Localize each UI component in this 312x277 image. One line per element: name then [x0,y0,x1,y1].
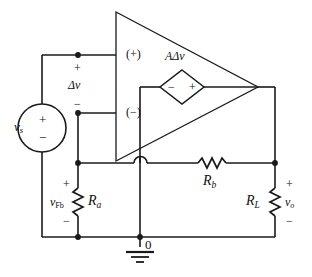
output-voltage-label: vo [285,196,294,210]
dependent-source-diamond [160,70,204,104]
source-label: vs [14,120,23,135]
delta-v-plus-sign: + [74,62,81,74]
resistor-a-branch [73,113,83,240]
resistor-load-label: RL [246,194,260,210]
opamp-inverting-terminal-label: (−) [126,106,141,118]
resistor-a-label: Ra [88,194,101,210]
ground-node-label: 0 [145,238,152,251]
source-label-subscript: s [20,125,23,135]
feedback-voltage-label: vFb [50,196,64,210]
resistor-load-zigzag [270,188,280,216]
resistor-b-label: Rb [203,174,216,190]
dependent-source-plus-sign: + [189,81,196,93]
output-voltage-plus-sign: + [286,178,293,190]
resistor-load-subscript: L [255,200,260,210]
resistor-a-zigzag [73,188,83,216]
circuit-schematic-canvas [0,0,312,277]
noninverting-input-lead [42,52,116,58]
delta-v-minus-sign: − [74,98,81,110]
source-plus-sign: + [39,113,46,126]
node-dot-plus-input [75,52,81,58]
dependent-source-branch [140,70,258,163]
opamp-noninverting-terminal-label: (+) [126,48,141,60]
source-minus-sign: − [39,131,46,144]
resistor-b-zigzag [198,158,226,168]
dependent-source-label: AΔv [165,50,185,62]
feedback-voltage-plus-sign: + [63,178,70,190]
circuit-diagram: vs + − + Δv − (+) (−) AΔv − + + vFb − Ra… [0,0,312,277]
feedback-rail [78,157,278,169]
feedback-voltage-minus-sign: − [63,215,70,227]
dependent-source-minus-sign: − [168,81,175,93]
output-voltage-minus-sign: − [286,215,293,227]
feedback-voltage-subscript: Fb [55,201,64,210]
resistor-b-subscript: b [212,180,217,190]
node-dot-ground [137,234,143,240]
inverting-input-lead [75,110,116,116]
delta-v-label: Δv [68,79,80,91]
resistor-a-subscript: a [97,200,102,210]
output-voltage-subscript: o [290,201,294,210]
